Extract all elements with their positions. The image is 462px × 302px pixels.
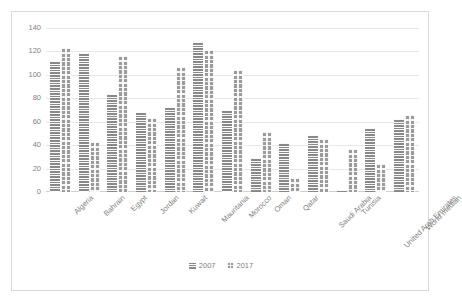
bar-2007-bahrain[interactable] bbox=[79, 53, 89, 192]
x-tick-label: Kuwait bbox=[188, 194, 209, 215]
x-tick-label: Jordan bbox=[159, 194, 181, 216]
plot-area: 020406080100120140 bbox=[46, 28, 419, 192]
bar-2007-kuwait[interactable] bbox=[165, 107, 175, 193]
legend-label: 2007 bbox=[199, 262, 216, 270]
bar-group bbox=[251, 28, 272, 192]
bar-group bbox=[136, 28, 157, 192]
bar-2017-mauritania[interactable] bbox=[204, 50, 214, 192]
bar-group bbox=[365, 28, 386, 192]
bar-2017-egypt[interactable] bbox=[118, 56, 128, 192]
legend-item-2007[interactable]: 2007 bbox=[189, 262, 216, 270]
bar-group bbox=[193, 28, 214, 192]
x-tick-label: Qatar bbox=[301, 194, 320, 213]
bar-group bbox=[308, 28, 329, 192]
bar-group bbox=[79, 28, 100, 192]
bar-group bbox=[165, 28, 186, 192]
bars-layer bbox=[46, 28, 419, 192]
bar-2007-algeria[interactable] bbox=[50, 61, 60, 192]
bar-2007-qatar[interactable] bbox=[279, 143, 289, 192]
x-tick-label: Egypt bbox=[129, 194, 148, 213]
bar-group bbox=[222, 28, 243, 192]
bar-group bbox=[394, 28, 415, 192]
x-tick-label: World median bbox=[424, 194, 462, 232]
bar-2017-jordan[interactable] bbox=[147, 118, 157, 192]
bar-2017-world-median[interactable] bbox=[405, 115, 415, 192]
y-tick-label: 120 bbox=[28, 48, 41, 56]
y-tick-label: 60 bbox=[33, 118, 41, 126]
bar-2017-tunisia[interactable] bbox=[348, 149, 358, 192]
chart-legend: 20072017 bbox=[12, 262, 430, 270]
bar-2007-morocco[interactable] bbox=[222, 110, 232, 192]
legend-item-2017[interactable]: 2017 bbox=[227, 262, 254, 270]
bar-2017-united-arab-emirates[interactable] bbox=[376, 164, 386, 192]
x-tick-label: Algeria bbox=[73, 194, 95, 216]
bar-group bbox=[50, 28, 71, 192]
y-tick-label: 100 bbox=[28, 71, 41, 79]
bar-2017-algeria[interactable] bbox=[61, 48, 71, 192]
bar-2007-world-median[interactable] bbox=[394, 119, 404, 192]
bar-2017-bahrain[interactable] bbox=[90, 142, 100, 192]
x-tick-label: Mauritania bbox=[220, 194, 250, 224]
bar-2007-mauritania[interactable] bbox=[193, 42, 203, 192]
bar-2017-kuwait[interactable] bbox=[176, 67, 186, 192]
y-tick-label: 0 bbox=[37, 188, 41, 196]
legend-swatch-icon bbox=[227, 262, 234, 269]
bar-2007-egypt[interactable] bbox=[107, 94, 117, 192]
bar-2017-morocco[interactable] bbox=[233, 70, 243, 192]
y-tick-label: 80 bbox=[33, 95, 41, 103]
chart-container: 020406080100120140 AlgeriaBahrainEgyptJo… bbox=[11, 11, 429, 291]
x-tick-label: Morocco bbox=[247, 194, 273, 220]
x-tick-label: Bahrain bbox=[103, 194, 127, 218]
y-tick-label: 20 bbox=[33, 165, 41, 173]
bar-2017-qatar[interactable] bbox=[290, 178, 300, 192]
y-tick-label: 140 bbox=[28, 24, 41, 32]
y-tick-label: 40 bbox=[33, 141, 41, 149]
bar-group bbox=[279, 28, 300, 192]
bar-2017-oman[interactable] bbox=[262, 132, 272, 192]
bar-2007-saudi-arabia[interactable] bbox=[308, 135, 318, 192]
bar-group bbox=[107, 28, 128, 192]
bar-group bbox=[337, 28, 358, 192]
bar-2007-oman[interactable] bbox=[251, 158, 261, 192]
bar-2007-jordan[interactable] bbox=[136, 112, 146, 192]
bar-2017-saudi-arabia[interactable] bbox=[319, 139, 329, 192]
bar-2007-tunisia[interactable] bbox=[337, 190, 347, 192]
bar-2007-united-arab-emirates[interactable] bbox=[365, 128, 375, 192]
legend-swatch-icon bbox=[189, 262, 196, 269]
x-tick-label: Oman bbox=[273, 194, 293, 214]
x-axis-labels: AlgeriaBahrainEgyptJordanKuwaitMauritani… bbox=[46, 194, 419, 264]
legend-label: 2017 bbox=[237, 262, 254, 270]
